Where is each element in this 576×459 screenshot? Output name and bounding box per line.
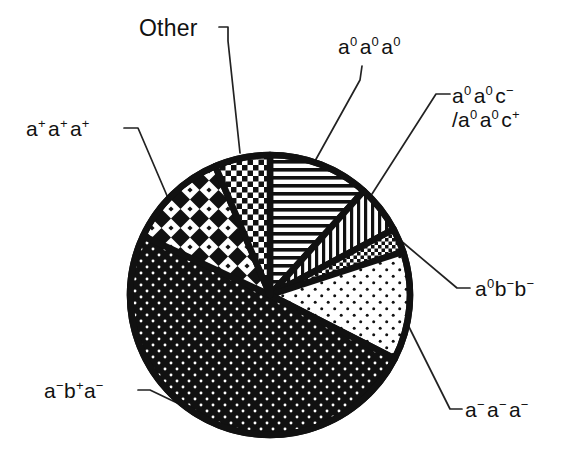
slice-label-a0a0a0: a0a0a0: [338, 35, 401, 59]
leader-line-other: [219, 27, 240, 153]
slice-label-other-text: Other: [139, 15, 198, 41]
slice-label-a0a0c-line1: a0a0c−: [452, 84, 520, 108]
slice-label-a0a0c: a0a0c− /a0a0c+: [452, 84, 520, 131]
slice-label-aaa: a−a−a−: [465, 398, 529, 422]
slice-label-a0bb: a0b−b−: [475, 277, 535, 301]
slice-label-other: Other: [139, 16, 198, 42]
pie-chart-figure: a0a0a0 — 11.7%a0a0c- /a0a0c+ — 5.6%a0b-b…: [0, 0, 576, 459]
slice-label-appapap: a+a+a+: [26, 117, 90, 141]
leader-line-a0a0c: [372, 94, 450, 194]
slice-label-abpa: a−b+a−: [44, 379, 104, 403]
slice-label-a0a0c-line2: /a0a0c+: [452, 108, 520, 132]
